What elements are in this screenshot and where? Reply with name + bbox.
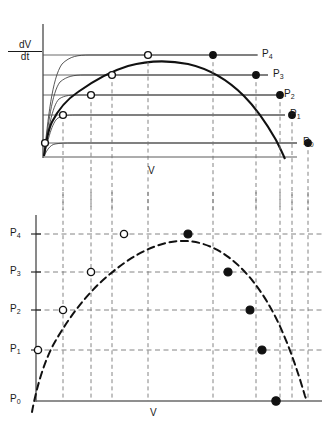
marker-open-p4-top xyxy=(145,52,152,59)
top-open-markers xyxy=(42,52,152,147)
bottom-panel xyxy=(31,192,322,412)
bottom-open-markers xyxy=(34,230,127,353)
top-x-axis-label: V xyxy=(148,165,155,176)
marker-open-p3-bottom xyxy=(87,268,94,275)
curve-p2 xyxy=(44,95,279,156)
marker-closed-p3-bottom xyxy=(224,268,232,276)
marker-open-p0-top xyxy=(42,140,49,147)
bottom-closed-markers xyxy=(184,230,280,405)
saturating-curves xyxy=(44,55,297,156)
top-level-lines xyxy=(43,55,297,143)
marker-open-p1-top xyxy=(60,112,67,119)
top-label-p2: P2 xyxy=(284,88,295,99)
bottom-level-lines xyxy=(36,234,322,350)
two-panel-physiology-figure xyxy=(0,0,330,427)
marker-open-p3-top xyxy=(109,72,116,79)
envelope-curve xyxy=(44,62,285,159)
curve-p4 xyxy=(44,55,258,156)
top-label-p4: P4 xyxy=(262,48,273,59)
curve-p0 xyxy=(44,143,297,156)
marker-open-p2-bottom xyxy=(59,306,66,313)
top-y-axis-label: dV dt xyxy=(8,40,42,62)
marker-open-p4-bottom xyxy=(120,230,127,237)
marker-open-p1-bottom xyxy=(34,346,41,353)
bottom-label-p1: P1 xyxy=(10,343,21,354)
bottom-label-p3: P3 xyxy=(10,265,21,276)
marker-closed-p0-bottom xyxy=(272,397,280,405)
top-label-p3: P3 xyxy=(273,68,284,79)
bottom-arch-curve xyxy=(32,241,308,412)
y-axis-denominator: dt xyxy=(8,51,42,63)
top-label-p1: P1 xyxy=(290,108,301,119)
marker-closed-p4-top xyxy=(210,52,217,59)
curve-p1 xyxy=(44,115,285,156)
top-label-p0: P0 xyxy=(303,136,314,147)
top-closed-markers xyxy=(210,52,312,147)
marker-closed-p2-bottom xyxy=(246,306,254,314)
bottom-label-p4: P4 xyxy=(10,227,21,238)
marker-open-p2-top xyxy=(88,92,95,99)
bottom-vertical-lines xyxy=(63,192,308,401)
marker-closed-p2-top xyxy=(277,92,284,99)
bottom-label-p0: P0 xyxy=(10,393,21,404)
marker-closed-p3-top xyxy=(253,72,260,79)
y-axis-numerator: dV xyxy=(8,40,42,51)
marker-closed-p1-bottom xyxy=(258,346,266,354)
bottom-x-axis-label: V xyxy=(150,407,157,418)
marker-closed-p4-bottom xyxy=(184,230,192,238)
bottom-label-p2: P2 xyxy=(10,303,21,314)
